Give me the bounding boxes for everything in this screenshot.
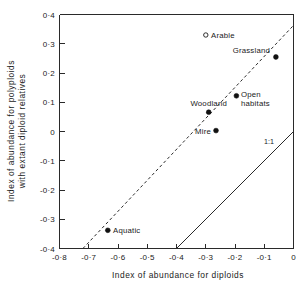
y-axis-tick-labels: 0·4 0·3 0·2 0·1 0 -0·1 -0·2 -0·3 -0·4	[40, 11, 55, 254]
one-to-one-line	[177, 132, 294, 249]
y-tick-label: 0·4	[43, 11, 56, 20]
x-axis-title: Index of abundance for diploids	[112, 270, 244, 280]
y-axis-title-line2: with extant diploid relatives	[17, 74, 27, 190]
data-point-label: Open habitats	[241, 90, 270, 108]
regression-line	[83, 25, 294, 248]
x-axis-ticks	[60, 244, 294, 249]
x-tick-label: -0·2	[227, 253, 242, 262]
scatter-plot-canvas: 0·4 0·3 0·2 0·1 0 -0·1 -0·2 -0·3 -0·4 -0…	[0, 0, 305, 288]
data-point-label: Mire	[195, 127, 211, 136]
x-tick-label: -0·6	[110, 253, 125, 262]
x-tick-label: -0·5	[140, 253, 155, 262]
y-tick-label: 0	[50, 128, 55, 137]
data-point-label: Grassland	[233, 46, 270, 55]
one-to-one-line-label: 1:1	[264, 137, 274, 146]
chart-figure: 0·4 0·3 0·2 0·1 0 -0·1 -0·2 -0·3 -0·4 -0…	[0, 0, 305, 288]
y-tick-label: -0·3	[40, 215, 55, 224]
data-point-marker[interactable]	[206, 110, 211, 115]
data-point-label: Arable	[211, 31, 235, 40]
y-axis-title-line1: Index of abundance for polyploids	[6, 60, 16, 202]
y-tick-label: -0·2	[40, 186, 55, 195]
x-tick-label: -0·1	[257, 253, 272, 262]
x-tick-label: -0·4	[169, 253, 184, 262]
x-tick-label: -0·7	[81, 253, 96, 262]
data-point-marker[interactable]	[105, 228, 110, 233]
y-tick-label: 0·2	[43, 69, 56, 78]
data-point-marker[interactable]	[204, 33, 208, 37]
data-point-marker[interactable]	[274, 55, 279, 60]
y-tick-label: -0·1	[40, 157, 55, 166]
x-tick-label: -0·3	[198, 253, 213, 262]
y-tick-label: 0·3	[43, 40, 56, 49]
data-point-label: Woodland	[190, 99, 227, 108]
x-tick-label: 0	[291, 253, 296, 262]
data-point-label: Aquatic	[113, 226, 140, 235]
data-point-marker[interactable]	[234, 93, 239, 98]
x-tick-label: -0·8	[52, 253, 67, 262]
y-axis-ticks	[60, 15, 65, 249]
data-point-marker[interactable]	[214, 128, 219, 133]
x-axis-tick-labels: -0·8 -0·7 -0·6 -0·5 -0·4 -0·3 -0·2 -0·1 …	[52, 253, 296, 262]
y-tick-label: 0·1	[43, 98, 56, 107]
